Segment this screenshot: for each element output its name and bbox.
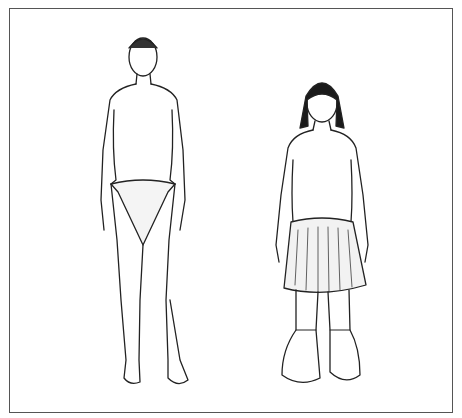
loincloth-icon (111, 180, 175, 245)
illustration-canvas (0, 0, 462, 418)
figure-right (276, 83, 368, 382)
hair-icon (129, 39, 157, 48)
figure-left (101, 38, 188, 384)
